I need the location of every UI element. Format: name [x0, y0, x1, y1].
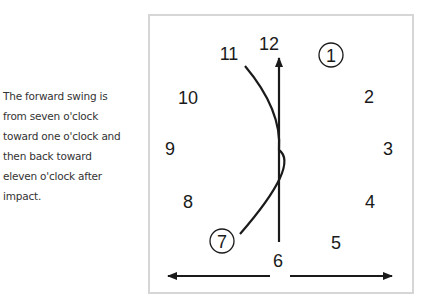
- numeral-8: 8: [183, 192, 193, 212]
- clock-diagram: 12 11 10 9 8 2 3 4 5 6 1 7: [0, 0, 431, 308]
- circled-numeral-1: 1: [319, 43, 343, 67]
- swing-arc: [240, 66, 284, 234]
- numeral-12: 12: [259, 34, 279, 54]
- numeral-2: 2: [364, 87, 374, 107]
- svg-text:7: 7: [217, 232, 227, 252]
- numeral-5: 5: [331, 233, 341, 253]
- numeral-4: 4: [365, 192, 375, 212]
- numeral-9: 9: [165, 139, 175, 159]
- circled-numeral-7: 7: [210, 229, 234, 253]
- numeral-6: 6: [273, 251, 283, 271]
- svg-text:1: 1: [326, 46, 336, 66]
- numeral-11: 11: [220, 44, 239, 64]
- numeral-10: 10: [178, 88, 198, 108]
- numeral-3: 3: [383, 139, 393, 159]
